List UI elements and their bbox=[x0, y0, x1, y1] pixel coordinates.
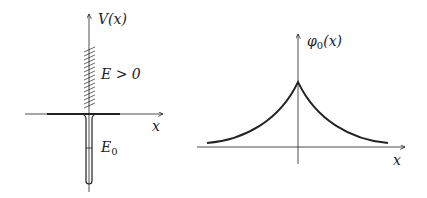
wavefunction-curve bbox=[207, 82, 388, 143]
right-y-axis-label: φ0(x) bbox=[307, 33, 342, 51]
potential-diagram: V(x) E > 0 x E0 bbox=[25, 11, 163, 192]
figure: V(x) E > 0 x E0 φ0(x) x bbox=[0, 0, 427, 198]
left-y-axis-label: V(x) bbox=[98, 11, 127, 27]
wavefunction-diagram: φ0(x) x bbox=[197, 33, 405, 168]
continuum-hatching bbox=[84, 47, 95, 108]
left-x-axis-label: x bbox=[152, 118, 160, 134]
continuum-label: E > 0 bbox=[100, 66, 141, 82]
right-x-axis-label: x bbox=[393, 152, 401, 168]
bound-state-label: E0 bbox=[100, 139, 118, 157]
